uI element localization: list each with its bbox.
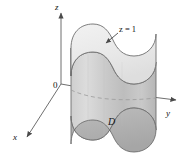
origin-label: 0 [53,80,58,90]
axis-x-line [27,84,61,137]
region-label-D: D [107,116,116,127]
callout-label-z-equals-1: z = 1 [119,24,136,34]
solid-cylinder: D [71,24,156,152]
axis-z-label: z [54,2,59,12]
solid-over-region-diagram: z y x 0 [0,0,193,157]
axis-x: x [12,84,61,142]
figure-container: z y x 0 [0,0,193,157]
axis-z: z [54,2,61,84]
axis-x-label: x [12,132,17,142]
axis-y-label: y [165,108,170,118]
